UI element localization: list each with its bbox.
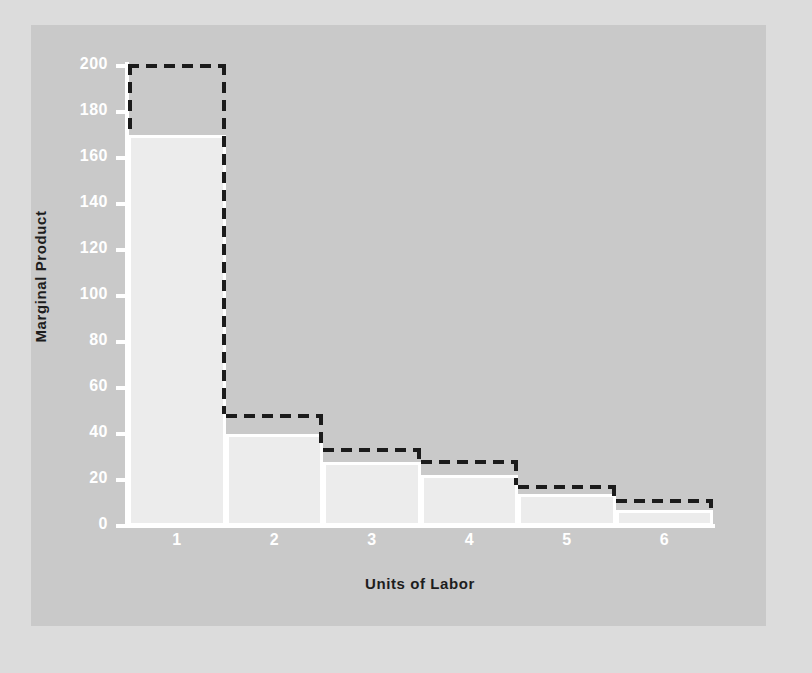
y-axis-tick-label: 60 — [48, 377, 108, 395]
y-axis-tick — [116, 64, 125, 68]
dashed-step-segment — [128, 64, 226, 68]
dashed-step-drop — [319, 414, 323, 449]
dashed-step-drop — [222, 64, 226, 414]
y-axis-tick-label: 140 — [48, 193, 108, 211]
y-axis-tick-label: 180 — [48, 101, 108, 119]
y-axis-title: Marginal Product — [32, 177, 49, 377]
dashed-step-segment — [323, 448, 421, 452]
y-axis-tick — [116, 524, 125, 528]
bar — [323, 462, 421, 526]
x-axis-title: Units of Labor — [125, 575, 715, 592]
bar — [128, 135, 226, 526]
y-axis-tick-label: 200 — [48, 55, 108, 73]
y-axis-tick — [116, 110, 125, 114]
dashed-step-drop — [514, 460, 518, 485]
x-axis-tick-label: 2 — [254, 531, 294, 549]
y-axis-tick — [116, 340, 125, 344]
y-axis-tick-label: 20 — [48, 469, 108, 487]
y-axis-tick-label: 40 — [48, 423, 108, 441]
dashed-step-drop — [612, 485, 616, 499]
y-axis-tick — [116, 432, 125, 436]
x-axis-tick-label: 4 — [449, 531, 489, 549]
y-axis-tick — [116, 156, 125, 160]
y-axis-tick-label: 160 — [48, 147, 108, 165]
y-axis-tick — [116, 386, 125, 390]
y-axis-tick-label: 0 — [48, 515, 108, 533]
y-axis-tick — [116, 478, 125, 482]
bar — [616, 510, 714, 526]
dashed-step-drop-leading — [128, 64, 132, 133]
x-axis-tick-label: 3 — [352, 531, 392, 549]
dashed-step-segment — [518, 485, 616, 489]
y-axis-tick — [116, 248, 125, 252]
y-axis-tick-label: 80 — [48, 331, 108, 349]
bar — [518, 494, 616, 526]
x-axis-tick-label: 6 — [644, 531, 684, 549]
dashed-step-segment — [421, 460, 519, 464]
y-axis-tick — [116, 294, 125, 298]
y-axis-tick — [116, 202, 125, 206]
dashed-step-drop — [417, 448, 421, 460]
x-axis-tick-label: 5 — [547, 531, 587, 549]
bar — [421, 475, 519, 526]
bar — [226, 434, 324, 526]
dashed-step-drop — [709, 499, 713, 508]
x-axis-tick-label: 1 — [157, 531, 197, 549]
y-axis-tick-label: 120 — [48, 239, 108, 257]
y-axis-tick-label: 100 — [48, 285, 108, 303]
dashed-step-segment — [616, 499, 714, 503]
dashed-step-segment — [226, 414, 324, 418]
chart-figure: 020406080100120140160180200 123456 Margi… — [0, 0, 812, 673]
